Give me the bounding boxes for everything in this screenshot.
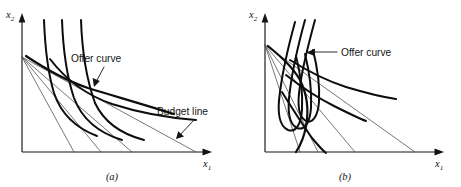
panel-b-x-axis-label: x1 bbox=[434, 158, 443, 172]
panel-b-axes bbox=[262, 13, 444, 155]
panel-b-y-axis-arrowhead bbox=[262, 13, 269, 23]
panel-a-axes bbox=[19, 13, 212, 155]
panel-b-caption: (b) bbox=[339, 171, 352, 183]
panel-b-offer-curve-annotation: Offer curve bbox=[306, 47, 392, 58]
panel-b-indifference-curves bbox=[279, 20, 396, 153]
panel-a-offer-curve-leader bbox=[96, 67, 104, 82]
panel-a-budget-line-label: Budget line bbox=[157, 106, 208, 117]
panel-a-caption: (a) bbox=[106, 171, 119, 183]
panel-b-x-axis-arrowhead bbox=[435, 149, 445, 156]
panel-b-offer-curve-label: Offer curve bbox=[341, 47, 392, 58]
economics-offer-curve-figure: x2 x1 Offer curve bbox=[0, 0, 461, 187]
panel-a-x-axis-label: x1 bbox=[202, 158, 211, 172]
panel-a-indifference-curve-1 bbox=[44, 20, 97, 136]
figure-root: x2 x1 Offer curve bbox=[0, 0, 461, 187]
panel-a: x2 x1 Offer curve bbox=[5, 9, 212, 183]
panel-a-offer-curve-arrowhead bbox=[93, 78, 100, 87]
panel-a-offer-curve-annotation: Offer curve bbox=[71, 53, 122, 87]
panel-a-budget-line-annotation: Budget line bbox=[157, 106, 208, 139]
panel-a-offer-curve-label: Offer curve bbox=[71, 53, 122, 64]
panel-b-y-axis-label: x2 bbox=[248, 9, 258, 23]
panel-a-y-axis-label: x2 bbox=[5, 9, 15, 23]
panel-a-y-axis-arrowhead bbox=[19, 13, 26, 23]
panel-a-x-axis-arrowhead bbox=[203, 149, 213, 156]
panel-a-budget-line-leader bbox=[180, 120, 194, 135]
panel-b: x2 x1 bbox=[248, 9, 444, 183]
